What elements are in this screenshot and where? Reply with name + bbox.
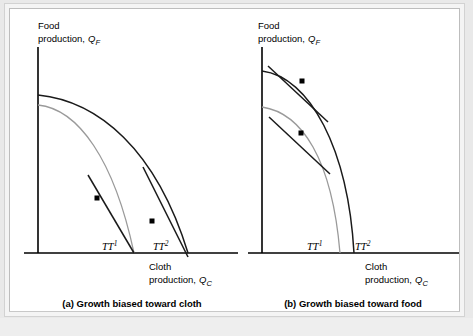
panel-b-x-axis-sub: C	[422, 279, 428, 288]
panel-b-label-tt1: TT1	[307, 239, 322, 252]
panel-a-y-axis-sub: F	[95, 38, 100, 47]
panel-a-y-axis-label-line1: Food	[38, 20, 60, 31]
panel-b-caption: (b) Growth biased toward food	[248, 296, 458, 311]
figure-caption-bar: (a) Growth biased toward cloth (b) Growt…	[10, 296, 459, 311]
panel-a-tangency-point-tt2	[150, 219, 155, 224]
panel-a-x-axis-label-line2: production,	[149, 274, 196, 285]
panel-b-tangent-tt2	[268, 66, 328, 122]
panel-b-x-axis-label-line2: production,	[365, 274, 412, 285]
panel-a-group: Food production,QF	[24, 20, 238, 288]
svg-text:production,QF: production,QF	[38, 33, 100, 47]
panel-b-y-axis-label-line1: Food	[258, 20, 280, 31]
panel-b-curve-tt2	[262, 71, 354, 253]
svg-text:production,QC: production,QC	[365, 274, 428, 288]
panel-a-curve-tt2	[38, 95, 188, 253]
panel-a-label-tt2: TT2	[153, 239, 169, 252]
panel-a-curve-tt1	[38, 105, 134, 253]
figure-plot-area: Food production,QF	[10, 9, 459, 296]
figure-svg: Food production,QF	[10, 9, 459, 296]
panel-b-curve-tt1	[262, 107, 340, 253]
panel-b-group: Food production,QF	[248, 20, 459, 288]
figure-frame: Food production,QF	[0, 0, 473, 336]
panel-b-x-axis-label-line1: Cloth	[365, 261, 387, 272]
panel-a-label-tt1: TT1	[102, 239, 117, 252]
svg-text:production,QF: production,QF	[258, 33, 320, 47]
panel-b-tangency-point-tt1	[299, 131, 304, 136]
panel-a-caption: (a) Growth biased toward cloth	[22, 296, 242, 311]
panel-b-label-tt2: TT2	[355, 239, 371, 252]
panel-a-x-axis-sub: C	[206, 279, 212, 288]
panel-a-y-axis-label-line2: production,	[38, 33, 85, 44]
panel-b-y-axis-sub: F	[315, 38, 320, 47]
panel-b-tangency-point-tt2	[300, 79, 305, 84]
panel-b-tangent-tt1	[269, 117, 330, 174]
svg-text:production,QC: production,QC	[149, 274, 212, 288]
panel-a-tangency-point-tt1	[95, 196, 100, 201]
figure-caption-divider	[9, 311, 460, 312]
panel-b-y-axis-label-line2: production,	[258, 33, 305, 44]
panel-a-x-axis-label-line1: Cloth	[149, 261, 171, 272]
page-bottom-strip	[0, 318, 473, 336]
